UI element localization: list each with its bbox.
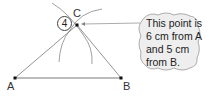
step-number-badge: 4 [57,16,72,31]
label-c: C [73,8,81,19]
callout-text: This point is 6 cm from A and 5 cm from … [146,17,204,69]
arc-from-b-lower [84,36,92,64]
callout-line: This point is [146,17,204,30]
arrowhead-icon [81,22,85,26]
arc-from-a-lower [59,30,70,62]
label-a: A [7,81,14,92]
callout-line: from B. [146,56,204,69]
callout-line: and 5 cm [146,43,204,56]
side-bc [77,25,121,78]
point-c [76,24,79,27]
callout-line: 6 cm from A [146,30,204,43]
callout-arrow [83,23,140,24]
label-b: B [123,81,130,92]
